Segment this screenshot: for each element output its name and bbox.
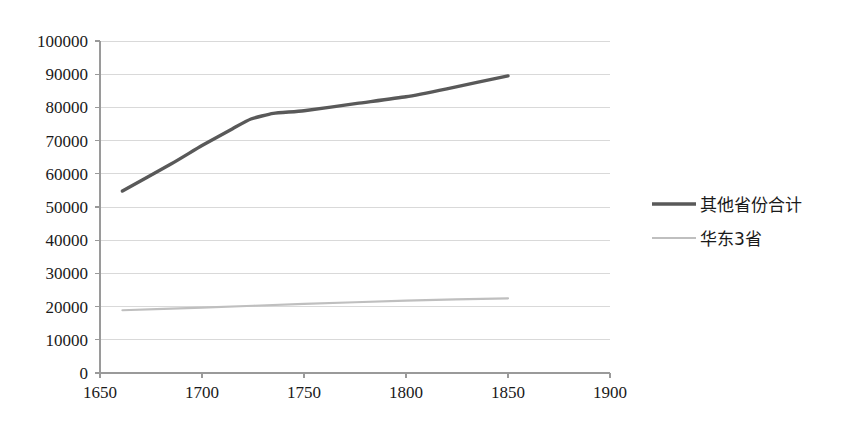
y-axis-tick-label: 20000: [46, 298, 89, 317]
y-axis-tick-label: 10000: [46, 331, 89, 350]
y-axis-tick-label: 60000: [46, 165, 89, 184]
y-axis-tick-label: 80000: [46, 98, 89, 117]
x-axis-tick-label: 1650: [83, 383, 117, 402]
x-axis-tick-label: 1900: [593, 383, 627, 402]
y-axis-tick-label: 70000: [46, 132, 89, 151]
series-line-2: [122, 298, 508, 310]
line-chart: 0100002000030000400005000060000700008000…: [0, 0, 854, 435]
gridlines: [100, 41, 610, 340]
legend-label-2: 华东3省: [700, 229, 762, 249]
chart-axes: [95, 41, 610, 378]
y-axis-tick-label: 0: [80, 364, 89, 383]
y-axis-tick-label: 50000: [46, 198, 89, 217]
legend-label-1: 其他省份合计: [700, 195, 802, 215]
x-axis-tick-label: 1750: [287, 383, 321, 402]
y-axis-tick-label: 90000: [46, 65, 89, 84]
x-axis-tick-label: 1700: [185, 383, 219, 402]
y-axis-tick-labels: 0100002000030000400005000060000700008000…: [37, 32, 88, 383]
y-axis-tick-label: 40000: [46, 231, 89, 250]
y-axis-tick-label: 100000: [37, 32, 88, 51]
y-axis-tick-label: 30000: [46, 264, 89, 283]
chart-legend: 其他省份合计华东3省: [652, 195, 802, 249]
x-axis-tick-labels: 165017001750180018501900: [83, 383, 627, 402]
chart-series: [122, 76, 508, 310]
x-axis-tick-label: 1850: [491, 383, 525, 402]
chart-container: 0100002000030000400005000060000700008000…: [0, 0, 854, 435]
x-axis-tick-label: 1800: [389, 383, 423, 402]
